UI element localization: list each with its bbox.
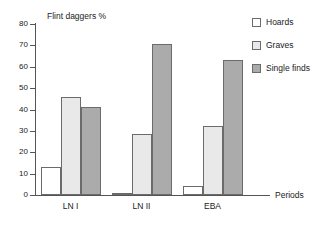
bar-ln-i-single-finds [81, 107, 101, 195]
y-axis-tick-label: 50 [0, 84, 28, 92]
y-axis-tick-label: 80 [0, 20, 28, 28]
y-axis-tick-label-text: 60 [2, 63, 28, 71]
legend-item-graves[interactable]: Graves [252, 40, 321, 50]
legend-swatch-icon [252, 64, 261, 73]
y-axis-tick-label: 30 [0, 127, 28, 135]
bar-ln-ii-hoards [112, 193, 132, 195]
chart-title: Flint daggers % [47, 11, 106, 21]
y-axis-tick-label-text: 80 [2, 20, 28, 28]
bar-eba-graves [203, 126, 223, 195]
x-axis-tick-label: LN I [41, 201, 101, 211]
plot-area [35, 24, 248, 195]
y-axis-tick-label-text: 30 [2, 127, 28, 135]
legend-swatch-icon [252, 41, 261, 50]
y-axis-tick-label-text: 70 [2, 41, 28, 49]
legend-item-label: Hoards [266, 17, 293, 27]
bar-eba-single-finds [223, 60, 243, 195]
y-axis-tick-label: 10 [0, 170, 28, 178]
y-axis-tick-label: 60 [0, 63, 28, 71]
legend-item-label: Single finds [266, 63, 310, 73]
bar-ln-i-hoards [41, 167, 61, 195]
y-axis-tick-label: 20 [0, 148, 28, 156]
y-axis-tick-label-text: 20 [2, 148, 28, 156]
x-axis-line [35, 195, 270, 196]
bar-eba-hoards [183, 186, 203, 195]
y-axis-tick-label-text: 50 [2, 84, 28, 92]
bar-chart: Flint daggers % 01020304050607080 LN ILN… [0, 0, 321, 230]
legend-swatch-icon [252, 18, 261, 27]
legend-item-hoards[interactable]: Hoards [252, 17, 321, 27]
legend-item-single-finds[interactable]: Single finds [252, 63, 321, 73]
y-axis-tick [30, 195, 35, 196]
bar-ln-ii-graves [132, 134, 152, 195]
x-axis-tick-label: LN II [112, 201, 172, 211]
y-axis-tick-label-text: 10 [2, 170, 28, 178]
bar-ln-i-graves [61, 97, 81, 195]
chart-legend: HoardsGravesSingle finds [252, 17, 321, 86]
x-axis-title: Periods [275, 190, 304, 200]
y-axis-tick-label-text: 0 [2, 191, 28, 199]
y-axis-tick-label: 0 [0, 191, 28, 199]
y-axis-tick-label-text: 40 [2, 106, 28, 114]
bar-ln-ii-single-finds [152, 44, 172, 195]
y-axis-tick-label: 70 [0, 41, 28, 49]
y-axis-tick-label: 40 [0, 106, 28, 114]
legend-item-label: Graves [266, 40, 293, 50]
x-axis-tick-label: EBA [183, 201, 243, 211]
